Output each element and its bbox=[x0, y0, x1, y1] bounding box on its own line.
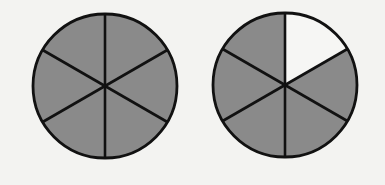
fraction-diagram bbox=[0, 0, 385, 185]
fraction-circle-whole bbox=[33, 14, 177, 158]
fraction-circle-five-sixths bbox=[213, 13, 357, 157]
